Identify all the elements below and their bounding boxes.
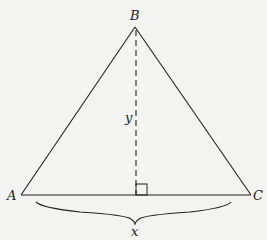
vertex-label-a: A	[6, 188, 16, 203]
side-bc	[135, 27, 251, 195]
side-ab	[21, 27, 135, 195]
base-brace	[36, 202, 231, 224]
altitude-label-y: y	[124, 110, 133, 125]
triangle-diagram: B A C y x	[0, 0, 267, 240]
right-angle-marker	[136, 184, 147, 195]
base-label-x: x	[131, 224, 139, 239]
vertex-label-c: C	[253, 188, 263, 203]
diagram-svg: B A C y x	[0, 0, 267, 240]
vertex-label-b: B	[129, 8, 140, 23]
